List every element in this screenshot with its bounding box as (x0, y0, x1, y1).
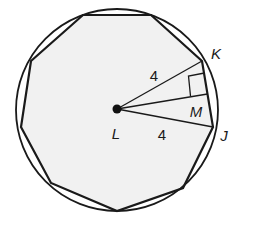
center-point-l (113, 105, 122, 114)
decagon-diagram: K M J L 4 4 (0, 0, 254, 245)
label-m: M (190, 104, 203, 119)
label-lk-length: 4 (150, 68, 158, 83)
label-lj-length: 4 (158, 127, 166, 142)
label-k: K (211, 46, 221, 61)
label-j: J (220, 128, 228, 143)
label-l: L (112, 126, 120, 141)
diagram-canvas (0, 0, 254, 245)
